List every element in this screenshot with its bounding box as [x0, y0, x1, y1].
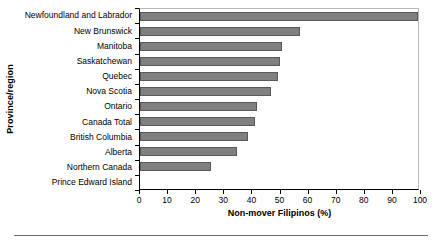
x-axis-tick-label: 20 — [190, 195, 199, 205]
bar — [140, 117, 255, 126]
category-label: Saskatchewan — [16, 54, 136, 69]
category-label: Quebec — [16, 69, 136, 84]
bar-row — [140, 144, 418, 159]
bar — [140, 57, 280, 66]
bar — [140, 132, 248, 141]
x-axis-tick — [420, 190, 421, 194]
x-axis-tick-label: 10 — [162, 195, 171, 205]
bar-row — [140, 99, 418, 114]
y-axis-title-text: Province/region — [5, 64, 15, 134]
category-label: Alberta — [16, 145, 136, 160]
bar — [140, 87, 271, 96]
bar-chart-figure: Province/region Newfoundland and Labrado… — [0, 0, 442, 246]
bar — [140, 147, 237, 156]
x-axis-tick — [392, 190, 393, 194]
bar-row — [140, 159, 418, 174]
x-axis-tick-label: 90 — [387, 195, 396, 205]
x-axis-tick — [195, 190, 196, 194]
x-axis-tick — [364, 190, 365, 194]
bar — [140, 102, 257, 111]
category-label: Northern Canada — [16, 160, 136, 175]
bar-row — [140, 24, 418, 39]
x-axis-tick-label: 0 — [137, 195, 142, 205]
x-axis-tick-label: 70 — [331, 195, 340, 205]
footer-divider — [14, 235, 428, 236]
x-axis-tick — [251, 190, 252, 194]
x-axis-tick-label: 60 — [303, 195, 312, 205]
x-axis-tick — [223, 190, 224, 194]
bar-row — [140, 9, 418, 24]
category-label: Prince Edward Island — [16, 175, 136, 190]
bar-row — [140, 69, 418, 84]
bar — [140, 162, 211, 171]
bar-row — [140, 84, 418, 99]
x-axis-tick — [167, 190, 168, 194]
bar-row — [140, 114, 418, 129]
x-axis-tick — [308, 190, 309, 194]
category-label: Manitoba — [16, 38, 136, 53]
x-axis-tick — [336, 190, 337, 194]
bar-row — [140, 54, 418, 69]
y-axis-category-labels: Newfoundland and LabradorNew BrunswickMa… — [16, 8, 136, 190]
category-label: Canada Total — [16, 114, 136, 129]
category-label: Newfoundland and Labrador — [16, 8, 136, 23]
bar-series — [140, 9, 418, 189]
bar — [140, 12, 418, 21]
x-axis-tick-label: 80 — [359, 195, 368, 205]
bar-row — [140, 39, 418, 54]
x-axis-tick-label: 30 — [219, 195, 228, 205]
x-axis-tick-label: 50 — [275, 195, 284, 205]
x-axis-tick — [139, 190, 140, 194]
category-label: New Brunswick — [16, 23, 136, 38]
x-axis-tick-labels: 0102030405060708090100 — [139, 195, 420, 207]
x-axis-tick — [280, 190, 281, 194]
plot-area — [139, 8, 419, 190]
x-axis-tick-label: 100 — [413, 195, 427, 205]
category-label: British Columbia — [16, 129, 136, 144]
bar — [140, 27, 300, 36]
bar-row — [140, 174, 418, 189]
bar — [140, 72, 278, 81]
category-label: Ontario — [16, 99, 136, 114]
category-label: Nova Scotia — [16, 84, 136, 99]
bar-row — [140, 129, 418, 144]
x-axis-title: Non-mover Filipinos (%) — [139, 208, 420, 218]
bar — [140, 42, 282, 51]
x-axis-tick-label: 40 — [247, 195, 256, 205]
